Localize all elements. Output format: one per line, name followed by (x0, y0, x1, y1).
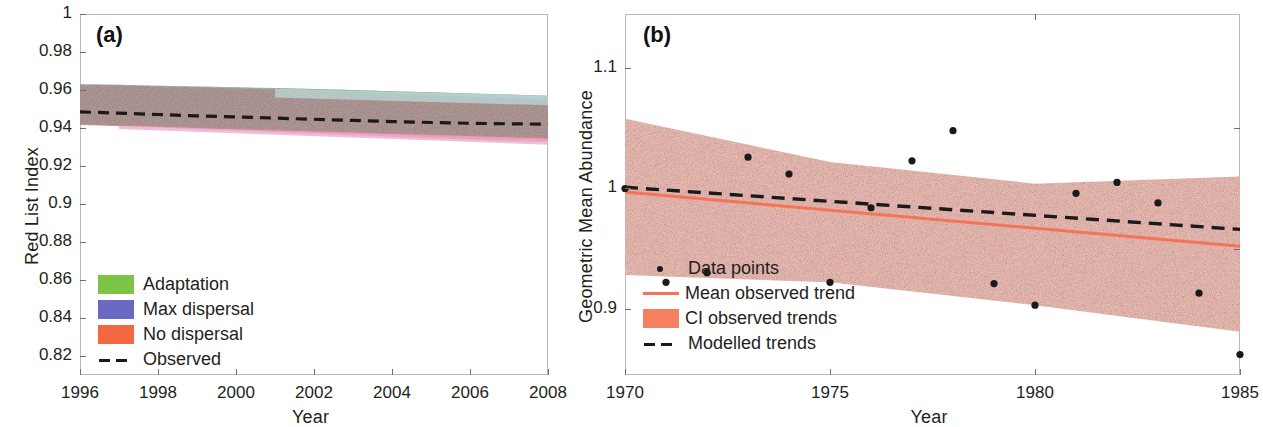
panel-a-legend-item: No dispersal (98, 322, 254, 347)
panel-a: Red List Index (a) 10.980.960.940.920.90… (0, 0, 620, 422)
panel-b-data-point (867, 204, 874, 211)
panel-a-x-tick: 2002 (274, 383, 354, 403)
panel-a-legend-label: No dispersal (143, 324, 243, 345)
legend-swatch-icon (98, 275, 134, 294)
panel-b-legend-label: CI observed trends (685, 308, 837, 329)
panel-a-y-tickmark (80, 204, 86, 205)
panel-b: Geometric Mean Abundance (b) 1.110.9 197… (620, 0, 1253, 422)
panel-a-y-tickmark (80, 356, 86, 357)
panel-b-y-tick: 1.1 (547, 57, 617, 77)
panel-b-x-tick: 1985 (1200, 383, 1263, 403)
panel-a-y-tickmark (80, 52, 86, 53)
panel-a-y-tickmark (80, 242, 86, 243)
panel-a-legend-item: Max dispersal (98, 297, 254, 322)
panel-b-x-tickmark (1035, 369, 1036, 375)
panel-b-data-point (949, 127, 956, 134)
panel-b-legend-item: Data points (643, 256, 855, 281)
panel-a-legend-label: Max dispersal (143, 299, 254, 320)
panel-b-y-minor-tickmark (1234, 128, 1240, 129)
panel-b-legend-label: Mean observed trend (685, 283, 855, 304)
panel-a-x-tickmark (470, 369, 471, 375)
panel-b-data-point (1195, 290, 1202, 297)
panel-b-data-point (744, 154, 751, 161)
panel-a-y-tickmark (80, 90, 86, 91)
panel-b-x-tick: 1980 (995, 383, 1075, 403)
dashed-line-icon (98, 350, 134, 369)
panel-a-y-tick: 0.96 (2, 79, 72, 99)
panel-a-x-tickmark (80, 369, 81, 375)
legend-swatch-icon (98, 300, 134, 319)
panel-a-y-tick: 0.86 (2, 269, 72, 289)
panel-a-x-tickmark (314, 369, 315, 375)
panel-b-x-tickmark (1240, 369, 1241, 375)
panel-b-data-point (1236, 351, 1243, 358)
dot-marker-icon (643, 259, 679, 278)
panel-a-y-tick: 0.94 (2, 117, 72, 137)
panel-b-legend-label: Modelled trends (688, 333, 816, 354)
panel-b-legend-label: Data points (688, 258, 779, 279)
panel-b-y-minor-tickmark (1234, 249, 1240, 250)
panel-a-y-tick: 1 (2, 3, 72, 23)
panel-a-x-tick: 2008 (508, 383, 588, 403)
panel-b-legend-item: Mean observed trend (643, 281, 855, 306)
panel-a-y-tickmark (80, 14, 86, 15)
panel-a-x-tick: 1998 (118, 383, 198, 403)
panel-b-data-point (908, 157, 915, 164)
panel-a-y-tickmark (80, 318, 86, 319)
panel-b-x-tickmark (830, 369, 831, 375)
panel-b-x-tick: 1975 (790, 383, 870, 403)
panel-a-x-tick: 2006 (430, 383, 510, 403)
panel-b-y-tickmark (625, 188, 631, 189)
panel-a-y-tick: 0.92 (2, 155, 72, 175)
panel-a-y-tickmark (80, 128, 86, 129)
panel-a-tag: (a) (96, 22, 123, 48)
panel-b-data-point (1072, 190, 1079, 197)
panel-b-y-tickmark (625, 309, 631, 310)
panel-b-x-top-tickmark (1035, 14, 1036, 20)
panel-b-legend: Data pointsMean observed trendCI observe… (643, 256, 855, 356)
panel-a-x-axis-label: Year (292, 407, 329, 427)
panel-b-data-point (1154, 199, 1161, 206)
panel-b-tag: (b) (643, 22, 671, 48)
panel-b-x-tickmark (625, 369, 626, 375)
panel-a-legend-item: Adaptation (98, 272, 254, 297)
legend-swatch-icon (98, 325, 134, 344)
panel-b-y-tick: 0.9 (547, 298, 617, 318)
panel-a-x-tick: 2000 (196, 383, 276, 403)
panel-a-x-tickmark (548, 369, 549, 375)
panel-a-legend-label: Observed (143, 349, 221, 370)
panel-a-x-tickmark (392, 369, 393, 375)
panel-b-data-point (1031, 302, 1038, 309)
panel-a-y-tick: 0.98 (2, 41, 72, 61)
panel-b-y-tickmark (625, 68, 631, 69)
panel-b-data-point (990, 280, 997, 287)
legend-swatch-icon (643, 309, 679, 328)
panel-a-y-tick: 0.82 (2, 345, 72, 365)
panel-a-x-tick: 1996 (40, 383, 120, 403)
panel-a-y-tick: 0.9 (2, 193, 72, 213)
panel-b-legend-item: Modelled trends (643, 331, 855, 356)
panel-b-plot-canvas (620, 0, 1253, 422)
panel-b-y-tick: 1 (547, 177, 617, 197)
panel-b-legend-item: CI observed trends (643, 306, 855, 331)
panel-a-legend-item: Observed (98, 347, 254, 372)
panel-a-y-tick: 0.88 (2, 231, 72, 251)
panel-a-x-tick: 2004 (352, 383, 432, 403)
panel-b-x-tick: 1970 (585, 383, 665, 403)
panel-b-data-point (1113, 179, 1120, 186)
panel-a-y-tickmark (80, 280, 86, 281)
panel-a-legend-label: Adaptation (143, 274, 229, 295)
solid-line-icon (643, 284, 679, 303)
panel-a-legend: AdaptationMax dispersalNo dispersalObser… (98, 272, 254, 372)
panel-a-y-tickmark (80, 166, 86, 167)
panel-b-x-axis-label: Year (911, 407, 948, 427)
panel-b-y-axis-label: Geometric Mean Abundance (576, 90, 597, 323)
panel-a-y-tick: 0.84 (2, 307, 72, 327)
panel-b-data-point (785, 170, 792, 177)
dashed-line-icon (643, 334, 679, 353)
